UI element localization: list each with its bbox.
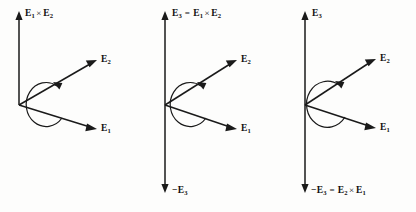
panel-3-e2-label: E2 (380, 54, 390, 64)
e1-label-base: E (241, 123, 248, 133)
equals-operator-icon: = (326, 185, 337, 195)
panel-2-canvas (140, 0, 280, 212)
panel-2-e1-label: E1 (241, 124, 251, 134)
rotation-arc (307, 81, 345, 127)
panel-2-top-label: E3=E1×E2 (172, 9, 221, 19)
vertical-axis-vector (15, 11, 22, 105)
top-label-base: E (312, 8, 319, 18)
rhs1-sub: 2 (344, 189, 347, 196)
e2-label-sub: 2 (387, 57, 390, 64)
panel-3-bottom-label: −E3=E2×E1 (311, 186, 366, 196)
rhs1-base: E (193, 8, 200, 18)
vector-diagram-figure: E1×E2 E2 E1 (0, 0, 416, 212)
e1-label-sub: 1 (108, 127, 111, 134)
panel-3-e1-label: E1 (380, 123, 390, 133)
cross-operator-icon: × (348, 185, 356, 195)
rotation-arc (170, 82, 206, 127)
equals-operator-icon: = (182, 8, 193, 18)
lhs-sub: 3 (323, 189, 326, 196)
e2-label-sub: 2 (248, 58, 251, 65)
panel-3-canvas (280, 0, 416, 212)
e2-label-base: E (241, 54, 248, 64)
axis-label-sub-2: 2 (50, 12, 53, 19)
panel-1-canvas (0, 0, 140, 212)
cross-operator-icon: × (35, 8, 43, 18)
axis-label-base-2: E (43, 8, 50, 18)
e2-label-base: E (380, 53, 387, 63)
e1-label-sub: 1 (248, 127, 251, 134)
top-label-sub: 3 (319, 12, 322, 19)
panel-1-e2-label: E2 (101, 55, 111, 65)
e1-vector (165, 105, 237, 131)
axis-label-sub-1: 1 (32, 12, 35, 19)
axis-label-base-1: E (25, 8, 32, 18)
vertical-axis-vector (301, 11, 308, 193)
e1-label-base: E (101, 123, 108, 133)
panel-2-e2-label: E2 (241, 55, 251, 65)
cross-operator-icon: × (203, 8, 211, 18)
rhs2-base: E (211, 8, 218, 18)
lhs-base: E (172, 8, 179, 18)
panel-cross-product-e1-e2: E1×E2 E2 E1 (0, 0, 140, 212)
rotation-arc (26, 82, 62, 127)
panel-1-e1-label: E1 (101, 124, 111, 134)
e2-label-base: E (101, 54, 108, 64)
vertical-axis-vector (161, 11, 168, 193)
bottom-label-sub: 3 (184, 189, 187, 196)
panel-3-top-label: E3 (312, 9, 322, 19)
e1-label-base: E (380, 122, 387, 132)
e2-vector (19, 60, 97, 105)
rhs2-sub: 1 (362, 189, 365, 196)
e1-label-sub: 1 (387, 126, 390, 133)
rhs1-sub: 1 (200, 12, 203, 19)
panel-1-axis-label: E1×E2 (25, 9, 53, 19)
lhs-sub: 3 (179, 12, 182, 19)
panel-e3-equals-e1-cross-e2: E3=E1×E2 E2 E1 −E3 (140, 0, 280, 212)
panel-minus-e3-equals-e2-cross-e1: E3 E2 E1 −E3=E2×E1 (280, 0, 416, 212)
rhs2-sub: 2 (218, 12, 221, 19)
e1-vector (305, 105, 376, 130)
panel-2-bottom-label: −E3 (172, 186, 187, 196)
e2-label-sub: 2 (108, 58, 111, 65)
